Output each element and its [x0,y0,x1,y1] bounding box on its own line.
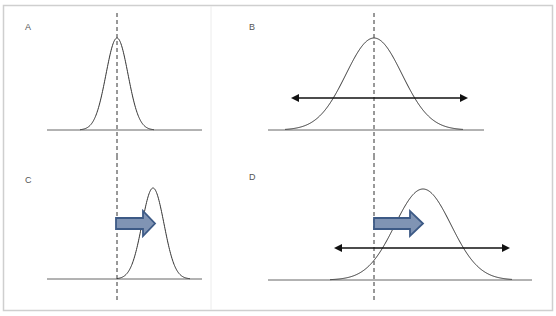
panel-d-shift-right-arrow-icon [374,211,423,236]
panel-b-label: B [249,22,255,32]
panel-a-label: A [25,22,31,32]
distribution-shift-figure: A B C D [0,0,556,316]
panel-a [47,13,202,156]
panel-c-curve [117,188,190,279]
panel-d-curve [330,189,512,280]
panel-b [268,13,484,156]
figure-canvas [0,0,556,316]
panel-d-label: D [249,172,256,182]
panel-c [47,156,202,301]
panel-c-shift-right-arrow-icon [116,211,155,236]
panel-d [268,156,532,301]
panel-c-label: C [25,175,32,185]
figure-frame [4,6,553,311]
